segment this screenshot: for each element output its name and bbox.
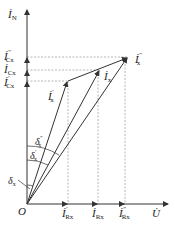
label-icx: İCx [3, 63, 16, 77]
label-u: U̇ [152, 207, 161, 219]
origin-label: O [18, 205, 26, 217]
vectors [27, 58, 127, 204]
label-irx-double-prime: İ"Rx [118, 205, 130, 221]
phasor-diagram: İN İ"Cx İCx İ'Cx İ'x İx İ"x δ"x δ'x δx O… [0, 0, 175, 225]
label-delta-prime: δ'x [30, 149, 37, 162]
label-ix-prime: İ'x [47, 88, 54, 104]
label-delta-double-prime: δ"x [35, 135, 43, 148]
vector-ix-double-prime [27, 58, 127, 204]
label-icx-double-prime: İ"Cx [3, 48, 14, 64]
label-irx: İRx [91, 207, 104, 221]
label-ix-double-prime: İ"x [134, 51, 142, 67]
axis-label-in: İN [7, 8, 17, 22]
label-delta: δx [8, 175, 16, 187]
vector-sum [68, 58, 127, 81]
label-ix: İx [103, 70, 112, 84]
label-irx-prime: İ'Rx [61, 205, 74, 221]
